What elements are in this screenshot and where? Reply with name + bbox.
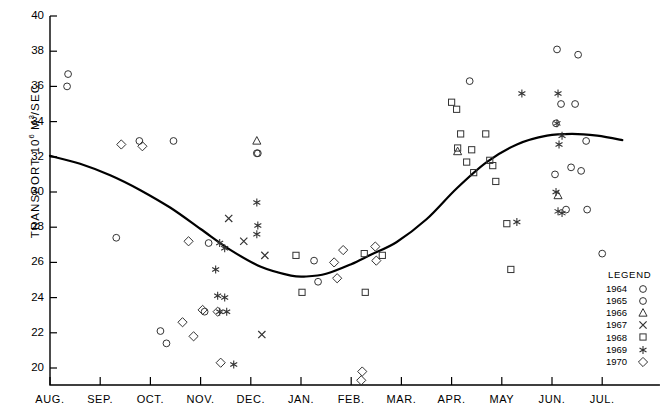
x-axis-tick-label: AUG. [25, 393, 75, 405]
legend-title: LEGEND [606, 270, 668, 280]
x-axis-tick-label: FEB. [326, 393, 376, 405]
axis-lines [50, 16, 660, 385]
x-axis-tick-label: MAY [477, 393, 527, 405]
legend-item-1970: 1970 [606, 356, 668, 368]
x-axis-tick-label: JAN. [276, 393, 326, 405]
x-axis-tick-label: JUL. [577, 393, 627, 405]
trend-curve [50, 134, 622, 277]
x-axis-tick-label: APR. [427, 393, 477, 405]
legend-marker-x-icon [636, 319, 658, 331]
legend-item-1967: 1967 [606, 319, 668, 331]
y-axis-tick-label: 28 [20, 221, 44, 233]
y-axis-tick-label: 22 [20, 327, 44, 339]
y-axis-tick-label: 26 [20, 256, 44, 268]
y-axis-tick-label: 20 [20, 362, 44, 374]
series-1968 [293, 99, 514, 295]
legend-year-label: 1970 [606, 357, 636, 367]
series-1970 [117, 140, 381, 385]
legend-year-label: 1964 [606, 284, 636, 294]
legend-item-1966: 1966 [606, 307, 668, 319]
series-1969 [212, 89, 565, 368]
x-axis-ticks [50, 377, 602, 385]
y-axis-tick-label: 38 [20, 45, 44, 57]
x-axis-tick-label: JUN. [527, 393, 577, 405]
series-1964 [64, 46, 606, 257]
y-axis-tick-label: 32 [20, 151, 44, 163]
legend-year-label: 1969 [606, 345, 636, 355]
y-axis-tick-label: 40 [20, 10, 44, 22]
plot-canvas [0, 0, 670, 418]
legend-item-1964: 1964 [606, 283, 668, 295]
x-axis-tick-label: DEC. [226, 393, 276, 405]
y-axis-tick-label: 36 [20, 80, 44, 92]
legend-item-1968: 1968 [606, 331, 668, 343]
legend-year-label: 1965 [606, 296, 636, 306]
legend-marker-triangle-icon [636, 307, 658, 319]
legend-year-label: 1967 [606, 320, 636, 330]
y-axis-tick-label: 30 [20, 186, 44, 198]
legend-item-1969: 1969 [606, 343, 668, 355]
y-axis-tick-label: 24 [20, 292, 44, 304]
legend-marker-circle-icon [636, 295, 658, 307]
x-axis-tick-label: MAR. [376, 393, 426, 405]
y-axis-tick-label: 34 [20, 116, 44, 128]
legend-marker-square-icon [636, 331, 658, 343]
y-axis-ticks [50, 16, 57, 368]
legend: LEGEND 1964196519661967196819691970 [606, 270, 668, 368]
series-1965 [113, 150, 322, 347]
x-axis-tick-label: OCT. [125, 393, 175, 405]
legend-marker-asterisk-icon [636, 344, 658, 356]
legend-marker-circle-icon [636, 283, 658, 295]
x-axis-tick-label: NOV. [176, 393, 226, 405]
legend-year-label: 1968 [606, 333, 636, 343]
legend-marker-diamond-icon [636, 356, 658, 368]
chart-figure: TRANSPORT 106 M3/SEC. 202224262830323436… [0, 0, 670, 418]
legend-item-1965: 1965 [606, 295, 668, 307]
legend-year-label: 1966 [606, 308, 636, 318]
series-1967 [225, 215, 268, 338]
x-axis-tick-label: SEP. [75, 393, 125, 405]
